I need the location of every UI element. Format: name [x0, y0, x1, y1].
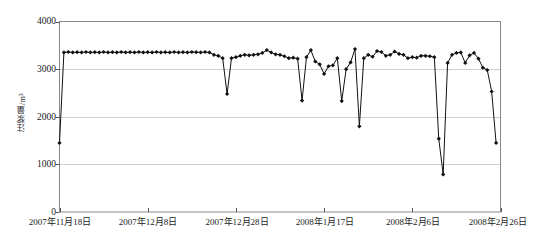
data-point-marker [115, 50, 119, 54]
data-point-marker [110, 50, 114, 54]
data-point-marker [282, 54, 286, 58]
data-point-marker [97, 50, 101, 54]
series-line [60, 49, 497, 174]
data-point-marker [168, 50, 172, 54]
plot-area [0, 0, 540, 245]
data-point-marker [415, 56, 419, 60]
data-point-marker [459, 50, 463, 54]
data-point-marker [106, 50, 110, 54]
data-point-marker [357, 124, 361, 128]
data-point-marker [185, 50, 189, 54]
data-point-marker [66, 50, 70, 54]
data-point-marker [194, 50, 198, 54]
data-point-marker [62, 50, 66, 54]
data-point-marker [128, 50, 132, 54]
data-point-marker [225, 92, 229, 96]
data-point-marker [463, 61, 467, 65]
data-point-marker [397, 52, 401, 56]
data-point-marker [326, 64, 330, 68]
data-point-marker [132, 50, 136, 54]
data-point-marker [88, 50, 92, 54]
data-point-marker [84, 50, 88, 54]
series-markers [57, 47, 498, 176]
data-point-marker [251, 53, 255, 57]
data-point-marker [229, 56, 233, 60]
data-point-marker [256, 52, 260, 56]
chart-figure: 注浆量/m³ 4000 3000 2000 1000 0 2007年11月18日… [0, 0, 540, 245]
data-point-marker [247, 53, 251, 57]
x-axis-tick-marks [61, 208, 502, 212]
data-point-marker [181, 50, 185, 54]
data-point-marker [207, 50, 211, 54]
data-point-marker [124, 50, 128, 54]
data-point-marker [150, 50, 154, 54]
data-point-marker [450, 53, 454, 57]
data-point-marker [141, 50, 145, 54]
data-point-marker [494, 141, 498, 145]
data-point-marker [340, 99, 344, 103]
data-point-marker [79, 50, 83, 54]
data-point-marker [432, 55, 436, 59]
data-point-marker [176, 50, 180, 54]
data-point-marker [322, 72, 326, 76]
data-point-marker [163, 50, 167, 54]
data-point-marker [468, 53, 472, 57]
data-point-marker [137, 50, 141, 54]
data-point-marker [291, 56, 295, 60]
data-point-marker [203, 50, 207, 54]
data-point-marker [445, 61, 449, 65]
data-point-marker [57, 141, 61, 145]
data-point-marker [437, 137, 441, 141]
y-axis-tick-marks [56, 23, 60, 213]
data-point-marker [199, 50, 203, 54]
data-point-marker [287, 56, 291, 60]
data-point-marker [296, 57, 300, 61]
plot-frame [60, 22, 501, 213]
data-point-marker [410, 55, 414, 59]
data-point-marker [423, 54, 427, 58]
data-point-marker [353, 47, 357, 51]
data-point-marker [221, 56, 225, 60]
data-point-marker [243, 53, 247, 57]
data-point-marker [273, 52, 277, 56]
data-point-marker [428, 54, 432, 58]
data-point-marker [146, 50, 150, 54]
data-point-marker [234, 55, 238, 59]
data-point-marker [172, 50, 176, 54]
data-point-marker [75, 50, 79, 54]
data-point-marker [216, 54, 220, 58]
data-point-marker [238, 54, 242, 58]
data-point-marker [278, 53, 282, 57]
data-point-marker [300, 98, 304, 102]
data-point-marker [102, 50, 106, 54]
data-point-marker [154, 50, 158, 54]
data-point-marker [441, 172, 445, 176]
data-point-marker [490, 89, 494, 93]
data-point-marker [485, 68, 489, 72]
data-point-marker [269, 50, 273, 54]
gridlines [60, 70, 501, 165]
data-point-marker [212, 53, 216, 57]
data-point-marker [159, 50, 163, 54]
data-point-marker [419, 54, 423, 58]
data-point-marker [71, 50, 75, 54]
data-point-marker [93, 50, 97, 54]
data-point-marker [454, 51, 458, 55]
data-point-marker [190, 50, 194, 54]
data-point-marker [119, 50, 123, 54]
